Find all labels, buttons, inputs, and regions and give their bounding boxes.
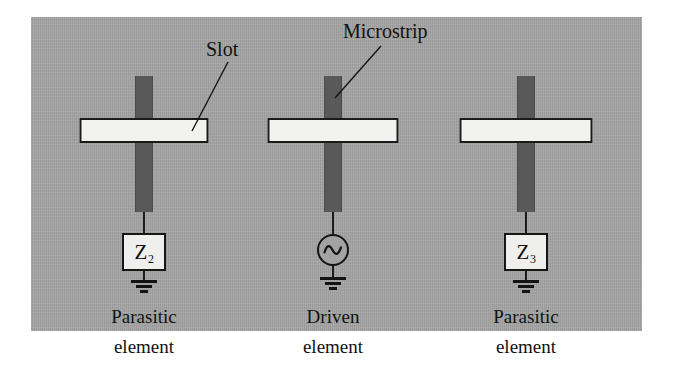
caption-left-line2: element <box>111 332 176 362</box>
figure-canvas: Z2 Z3 Slot <box>0 0 676 373</box>
caption-right-line1: Parasitic <box>493 306 558 327</box>
caption-right-line2: element <box>493 332 558 362</box>
caption-middle: Driven element <box>303 302 363 362</box>
caption-middle-line2: element <box>303 332 363 362</box>
slot-annotation-label: Slot <box>206 38 238 61</box>
caption-left: Parasitic element <box>111 302 176 362</box>
caption-middle-line1: Driven <box>307 306 360 327</box>
microstrip-annotation-label: Microstrip <box>343 20 427 43</box>
caption-left-line1: Parasitic <box>111 306 176 327</box>
caption-right: Parasitic element <box>493 302 558 362</box>
